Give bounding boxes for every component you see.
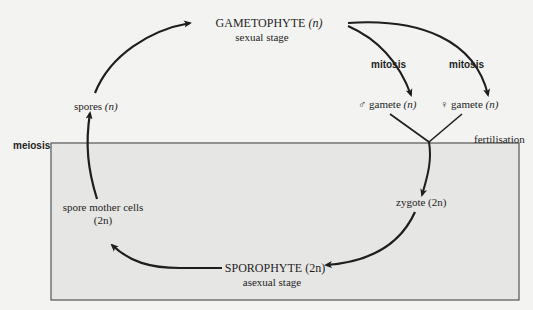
sporophyte-label: SPOROPHYTE: [225, 261, 302, 275]
female-gamete-label: gamete: [451, 98, 483, 110]
node-spore-mother-cells: spore mother cells: [63, 201, 144, 213]
male-gamete-ploidy: (n): [404, 98, 417, 110]
node-male-gamete: ♂ gamete (n): [358, 98, 416, 110]
gametophyte-sublabel: sexual stage: [235, 31, 288, 43]
node-gametophyte: GAMETOPHYTE (n): [216, 17, 323, 29]
spores-ploidy: (n): [105, 100, 118, 112]
male-gamete-label: gamete: [369, 98, 401, 110]
process-meiosis: meiosis: [13, 140, 50, 152]
sporophyte-sublabel: asexual stage: [243, 276, 301, 288]
female-gamete-ploidy: (n): [486, 98, 499, 110]
female-symbol-icon: ♀: [440, 98, 448, 110]
node-spores: spores (n): [74, 100, 118, 112]
gametophyte-ploidy: (n): [308, 16, 322, 30]
spores-label: spores: [74, 100, 102, 112]
node-sporophyte: SPOROPHYTE (2n): [225, 262, 325, 274]
line-female-gamete-fusion: [429, 114, 462, 142]
male-symbol-icon: ♂: [358, 98, 366, 110]
sporophyte-ploidy: (2n): [305, 261, 325, 275]
node-female-gamete: ♀ gamete (n): [440, 98, 498, 110]
zygote-label: zygote: [396, 196, 425, 208]
spore-mother-cells-ploidy: (2n): [94, 214, 112, 226]
process-fertilisation: fertilisation: [474, 133, 525, 145]
zygote-ploidy: (2n): [428, 196, 446, 208]
gametophyte-label: GAMETOPHYTE: [216, 16, 306, 30]
process-mitosis-male: mitosis: [371, 59, 406, 71]
process-mitosis-female: mitosis: [449, 59, 484, 71]
arrow-spores-to-gametophyte: [95, 23, 190, 93]
node-zygote: zygote (2n): [396, 196, 446, 208]
line-male-gamete-fusion: [390, 114, 429, 142]
